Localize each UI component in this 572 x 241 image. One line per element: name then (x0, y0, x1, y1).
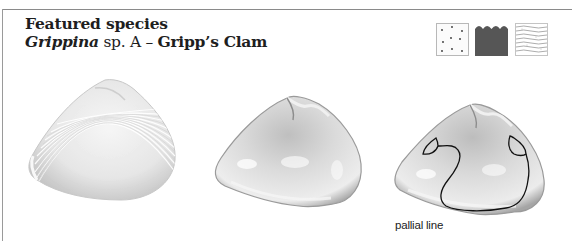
common-name: Gripp’s Clam (158, 32, 268, 51)
pallial-line-outline (390, 100, 550, 218)
water-habitat-icon (475, 23, 508, 56)
shell-interior-annotated-view (390, 100, 550, 218)
section-heading: Featured species (25, 15, 168, 33)
species-name: Grippina sp. A – Gripp’s Clam (25, 33, 267, 51)
frame-top-rule (2, 9, 572, 10)
species-suffix: sp. A (99, 33, 141, 51)
frame-left-rule (2, 9, 3, 241)
sand-habitat-icon (436, 23, 469, 56)
name-separator: – (141, 33, 158, 51)
genus-name: Grippina (25, 32, 99, 51)
pallial-line-label: pallial line (395, 219, 443, 231)
mud-habitat-icon (515, 23, 548, 56)
shell-interior-view (211, 92, 367, 212)
shell-exterior-view (25, 76, 181, 204)
